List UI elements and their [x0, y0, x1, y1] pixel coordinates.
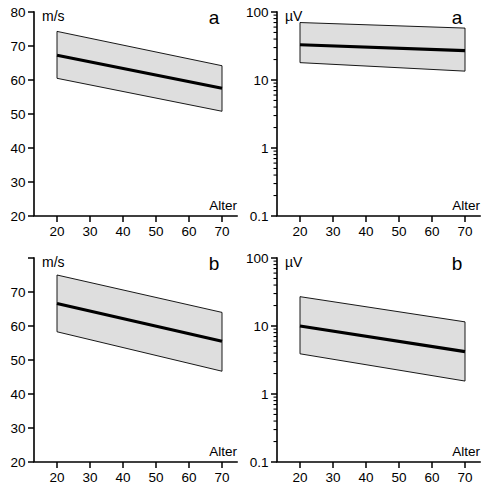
x-tick-label: 50 — [391, 470, 406, 485]
unit-label: µV — [285, 8, 303, 24]
panel-letter: a — [209, 7, 220, 28]
x-tick-label: 70 — [457, 470, 472, 485]
panel-plot-top-left: 80706050403020203040506070m/saAlter — [0, 0, 243, 246]
panel-top-right: 1001010.1203040506070µVaAlter — [243, 0, 486, 246]
x-tick-label: 20 — [49, 224, 64, 239]
x-tick-label: 20 — [49, 470, 64, 485]
y-tick-label: 70 — [10, 285, 25, 300]
x-tick-label: 70 — [214, 224, 229, 239]
x-tick-label: 50 — [148, 224, 163, 239]
figure-container: 80706050403020203040506070m/saAlter10010… — [0, 0, 486, 492]
y-tick-label: 0.1 — [250, 455, 269, 470]
y-tick-label: 40 — [10, 141, 25, 156]
panel-bottom-left: 706050403020203040506070m/sbAlter — [0, 246, 243, 492]
x-tick-label: 30 — [325, 224, 340, 239]
x-tick-label: 20 — [292, 224, 307, 239]
unit-label: m/s — [42, 254, 65, 270]
y-tick-label: 100 — [246, 5, 269, 20]
x-tick-label: 60 — [181, 224, 196, 239]
y-tick-label: 70 — [10, 39, 25, 54]
x-tick-label: 60 — [181, 470, 196, 485]
y-tick-label: 100 — [246, 251, 269, 266]
y-tick-label: 20 — [10, 209, 25, 224]
panel-plot-bottom-left: 706050403020203040506070m/sbAlter — [0, 246, 243, 492]
x-tick-label: 30 — [325, 470, 340, 485]
y-tick-label: 50 — [10, 107, 25, 122]
unit-label: µV — [285, 254, 303, 270]
x-tick-label: 30 — [82, 470, 97, 485]
x-tick-label: 40 — [358, 470, 373, 485]
y-tick-label: 20 — [10, 455, 25, 470]
panel-letter: b — [209, 253, 220, 274]
x-tick-label: 70 — [457, 224, 472, 239]
x-axis-title: Alter — [209, 198, 237, 213]
x-tick-label: 60 — [424, 224, 439, 239]
panel-top-left: 80706050403020203040506070m/saAlter — [0, 0, 243, 246]
y-tick-label: 30 — [10, 421, 25, 436]
x-tick-label: 50 — [148, 470, 163, 485]
x-tick-label: 70 — [214, 470, 229, 485]
y-tick-label: 1 — [261, 387, 269, 402]
x-tick-label: 30 — [82, 224, 97, 239]
y-tick-label: 50 — [10, 353, 25, 368]
y-tick-label: 0.1 — [250, 209, 269, 224]
y-tick-label: 30 — [10, 175, 25, 190]
y-tick-label: 10 — [253, 73, 268, 88]
unit-label: m/s — [42, 8, 65, 24]
x-tick-label: 40 — [115, 470, 130, 485]
panel-letter: a — [452, 7, 463, 28]
y-tick-label: 60 — [10, 319, 25, 334]
y-tick-label: 60 — [10, 73, 25, 88]
x-tick-label: 40 — [115, 224, 130, 239]
y-tick-label: 40 — [10, 387, 25, 402]
x-axis-title: Alter — [452, 198, 480, 213]
y-tick-label: 10 — [253, 319, 268, 334]
y-tick-label: 1 — [261, 141, 269, 156]
y-tick-label: 80 — [10, 5, 25, 20]
x-axis-title: Alter — [209, 444, 237, 459]
x-tick-label: 60 — [424, 470, 439, 485]
x-tick-label: 20 — [292, 470, 307, 485]
x-tick-label: 40 — [358, 224, 373, 239]
x-axis-title: Alter — [452, 444, 480, 459]
panel-letter: b — [452, 253, 463, 274]
x-tick-label: 50 — [391, 224, 406, 239]
panel-plot-top-right: 1001010.1203040506070µVaAlter — [243, 0, 486, 246]
panel-plot-bottom-right: 1001010.1203040506070µVbAlter — [243, 246, 486, 492]
panel-bottom-right: 1001010.1203040506070µVbAlter — [243, 246, 486, 492]
